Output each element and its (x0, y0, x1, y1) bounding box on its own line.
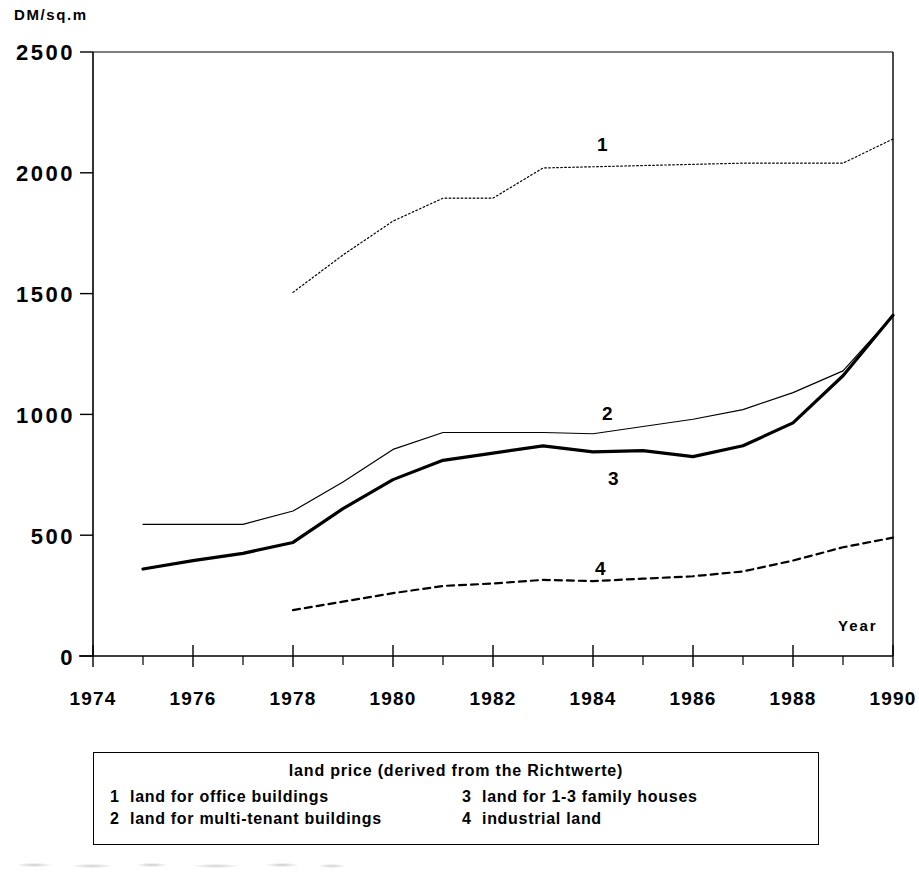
series-line-4 (293, 538, 893, 610)
series-line-2 (143, 315, 893, 524)
legend: land price (derived from the Richtwerte)… (93, 752, 819, 845)
legend-key-3: 3 (462, 788, 482, 806)
legend-key-2: 2 (110, 810, 130, 828)
axes-layer (79, 52, 893, 667)
legend-item-4: 4industrial land (462, 810, 818, 828)
legend-key-1: 1 (110, 788, 130, 806)
legend-label-4: industrial land (482, 810, 602, 827)
legend-item-1: 1land for office buildings (110, 788, 462, 806)
scan-artifact (20, 862, 350, 869)
legend-item-3: 3land for 1-3 family houses (462, 788, 818, 806)
series-line-1 (293, 139, 893, 292)
legend-item-2: 2land for multi-tenant buildings (110, 810, 462, 828)
legend-label-1: land for office buildings (130, 788, 329, 805)
legend-entries: 1land for office buildings 3land for 1-3… (94, 788, 818, 828)
legend-label-2: land for multi-tenant buildings (130, 810, 382, 827)
legend-title: land price (derived from the Richtwerte) (94, 762, 818, 780)
legend-key-4: 4 (462, 810, 482, 828)
chart-figure: DM/sq.m 2500 2000 1500 1000 500 0 1974 1… (0, 0, 919, 884)
series-line-3 (143, 315, 893, 569)
legend-label-3: land for 1-3 family houses (482, 788, 698, 805)
series-layer (143, 139, 893, 610)
